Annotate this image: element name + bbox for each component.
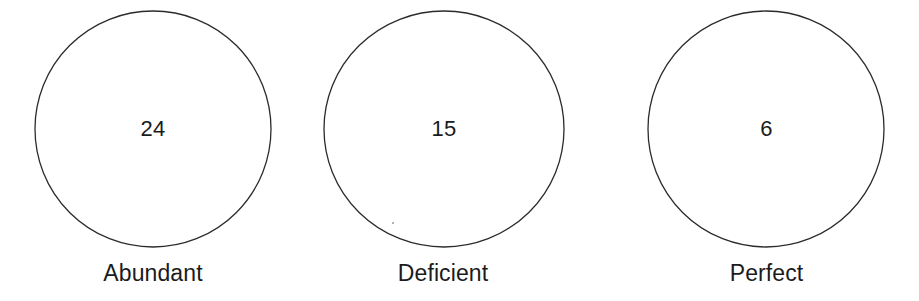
- circle-outline-deficient: [306, 0, 612, 301]
- circle-value-perfect: 6: [613, 118, 919, 140]
- circle-group-deficient: 15 Deficient: [306, 0, 612, 301]
- circle-label-perfect: Perfect: [613, 262, 919, 285]
- circle-outline-perfect: [612, 0, 919, 301]
- circle-value-deficient: 15: [291, 118, 597, 140]
- scan-speck: [392, 222, 394, 224]
- circle-label-deficient: Deficient: [290, 262, 596, 285]
- circle-label-abundant: Abundant: [0, 262, 306, 285]
- circle-group-perfect: 6 Perfect: [612, 0, 919, 301]
- circle-value-abundant: 24: [0, 118, 306, 140]
- diagram-canvas: 24 Abundant 15 Deficient 6 Perfect: [0, 0, 919, 301]
- circle-group-abundant: 24 Abundant: [0, 0, 306, 301]
- circle-outline-abundant: [0, 0, 306, 301]
